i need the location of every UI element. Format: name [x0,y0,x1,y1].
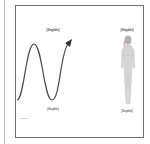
left-panel-subcaption: [illegible] [19,117,28,120]
human-figure-icon [116,34,140,109]
sine-wave-arrow-icon [16,34,86,104]
outer-left-rule [4,0,5,144]
right-panel-caption: [illegible] [110,110,144,114]
left-panel-header: [illegible] [38,28,68,32]
right-panel-header: [illegible] [112,28,142,32]
diagram-frame: [illegible] [illegible] [illegible] [ill… [15,5,144,138]
left-panel-caption: [illegible] [38,108,68,112]
